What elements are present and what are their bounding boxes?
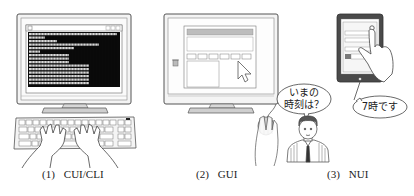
- answer-text: 7時です: [358, 101, 402, 113]
- caption-nui: (3)NUI: [327, 168, 368, 180]
- monitor: [17, 14, 131, 113]
- person: [287, 116, 329, 162]
- gui-illustration: [140, 0, 280, 170]
- cui-illustration: [0, 0, 140, 170]
- nui-illustration: [274, 0, 414, 170]
- trash-icon: [172, 60, 179, 66]
- monitor: [164, 14, 278, 120]
- caption-number: (2): [196, 168, 209, 180]
- caption-number: (1): [42, 168, 55, 180]
- caption-label: NUI: [349, 168, 369, 180]
- panel-cui: (1)CUI/CLI: [0, 0, 140, 196]
- question-line-1: いまの: [283, 87, 325, 99]
- caption-label: CUI/CLI: [64, 168, 104, 180]
- question-text: いまの 時刻は？: [283, 87, 325, 111]
- caption-gui: (2)GUI: [196, 168, 237, 180]
- panel-nui: いまの 時刻は？ 7時です (3)NUI: [274, 0, 414, 196]
- panel-gui: (2)GUI: [140, 0, 280, 196]
- question-line-2: 時刻は？: [283, 99, 325, 111]
- caption-cui: (1)CUI/CLI: [42, 168, 104, 180]
- caption-label: GUI: [218, 168, 238, 180]
- caption-number: (3): [327, 168, 340, 180]
